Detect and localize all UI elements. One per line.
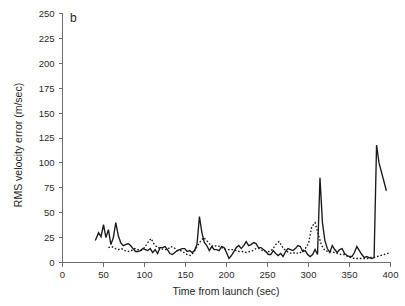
panel-label: b <box>70 11 77 25</box>
x-tick-label: 350 <box>342 269 358 280</box>
y-tick-label: 50 <box>44 207 55 218</box>
y-tick-label: 0 <box>49 257 54 268</box>
y-tick-label: 25 <box>44 232 55 243</box>
x-tick-label: 300 <box>301 269 317 280</box>
chart-canvas: 0255075100125150175200225250 05010015020… <box>0 0 405 306</box>
axes-group: 0255075100125150175200225250 05010015020… <box>39 8 399 280</box>
chart-figure: 0255075100125150175200225250 05010015020… <box>0 0 405 306</box>
x-tick-label: 50 <box>98 269 109 280</box>
x-axis-title: Time from launch (sec) <box>173 285 280 297</box>
y-tick-label: 75 <box>44 182 55 193</box>
y-tick-label: 100 <box>39 157 55 168</box>
y-tick-label: 150 <box>39 108 55 119</box>
y-tick-label: 175 <box>39 83 55 94</box>
x-tick-label: 0 <box>60 269 65 280</box>
y-tick-label: 200 <box>39 58 55 69</box>
x-tick-label: 250 <box>260 269 276 280</box>
x-tick-label: 150 <box>178 269 194 280</box>
labels-group: Time from launch (sec) RMS velocity erro… <box>12 11 279 297</box>
series-solid-line <box>95 145 386 259</box>
y-axis-title: RMS velocity error (m/sec) <box>12 83 24 207</box>
y-tick-label: 250 <box>39 8 55 19</box>
series-dotted-line <box>108 223 390 259</box>
x-tick-label: 200 <box>219 269 235 280</box>
y-axis-ticks: 0255075100125150175200225250 <box>39 8 63 268</box>
y-tick-label: 225 <box>39 33 55 44</box>
x-axis-ticks: 050100150200250300350400 <box>60 263 399 280</box>
x-tick-label: 400 <box>383 269 399 280</box>
x-tick-label: 100 <box>137 269 153 280</box>
series-group <box>95 145 390 259</box>
y-tick-label: 125 <box>39 132 55 143</box>
